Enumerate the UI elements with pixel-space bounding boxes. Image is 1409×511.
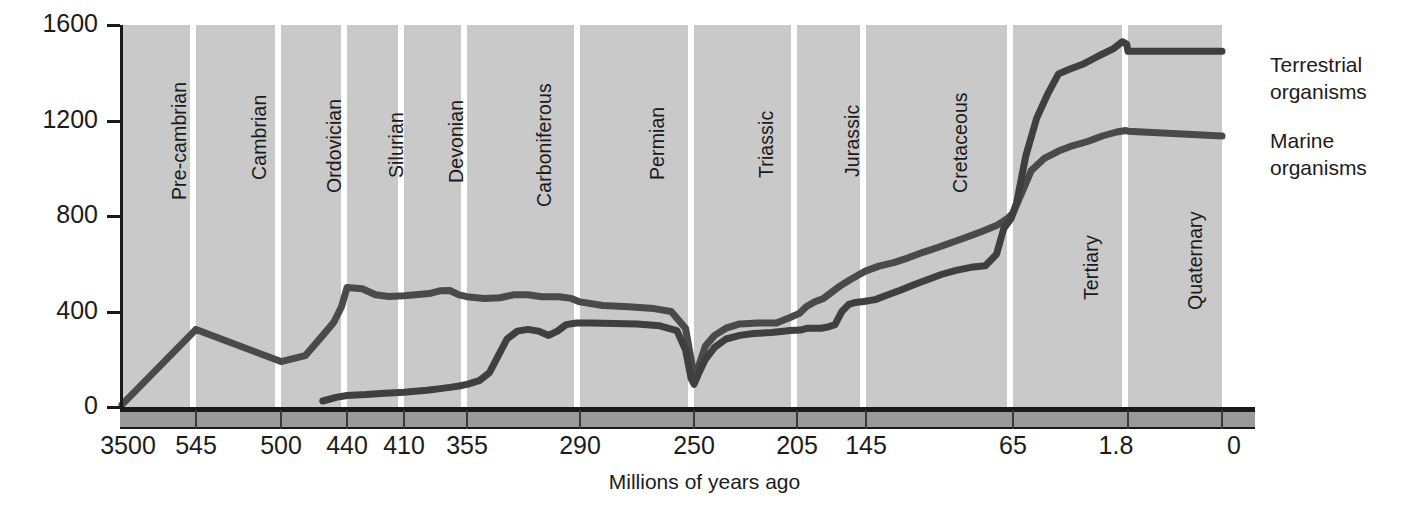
period-label-triassic: Triassic (755, 111, 778, 178)
period-scale-divider-6 (579, 410, 581, 429)
period-label-ordovician: Ordovician (323, 99, 346, 193)
y-tick-mark-1600 (107, 24, 120, 27)
x-tick-label-65: 65 (953, 433, 1073, 458)
period-band-jurassic (797, 25, 860, 407)
x-tick-label-355: 355 (407, 433, 527, 458)
period-band-cambrian (196, 25, 275, 407)
y-tick-label-1600: 1600 (0, 11, 98, 36)
period-label-silurian: Silurian (385, 112, 408, 178)
period-scale-divider-1 (195, 410, 197, 429)
y-tick-label-1200: 1200 (0, 107, 98, 132)
period-band-cretaceous (866, 25, 1007, 407)
period-label-devonian: Devonian (445, 100, 468, 183)
period-band-triassic (694, 25, 791, 407)
period-scale-divider-9 (865, 410, 867, 429)
period-label-pre-cambrian: Pre-cambrian (168, 82, 191, 200)
x-tick-label-145: 145 (806, 433, 926, 458)
period-band-ordovician (281, 25, 341, 407)
period-scale-bar (120, 410, 1255, 429)
period-band-carboniferous (467, 25, 574, 407)
y-tick-mark-800 (107, 215, 120, 218)
period-band-quaternary (1128, 25, 1222, 407)
period-scale-divider-4 (403, 410, 405, 429)
period-band-permian (580, 25, 688, 407)
period-scale-divider-2 (280, 410, 282, 429)
y-axis-line (120, 25, 123, 409)
legend-marine-line2: organisms (1270, 155, 1367, 182)
period-band-devonian (404, 25, 461, 407)
x-tick-label-250: 250 (634, 433, 754, 458)
period-band-tertiary (1013, 25, 1122, 407)
period-band-silurian (347, 25, 398, 407)
y-tick-mark-1200 (107, 120, 120, 123)
period-scale-divider-3 (346, 410, 348, 429)
legend-entry-terrestrial: Terrestrial organisms (1270, 52, 1367, 106)
legend-entry-marine: Marine organisms (1270, 128, 1367, 182)
chart-figure: Number of families 040080012001600350054… (0, 0, 1409, 511)
legend-terrestrial-line1: Terrestrial (1270, 52, 1367, 79)
period-label-carboniferous: Carboniferous (533, 83, 556, 207)
x-tick-label-290: 290 (520, 433, 640, 458)
x-axis-title: Millions of years ago (0, 470, 1409, 494)
y-tick-mark-400 (107, 311, 120, 314)
x-tick-label-0: 0 (1174, 433, 1294, 458)
x-tick-label-1-8: 1.8 (1056, 433, 1176, 458)
period-label-jurassic: Jurassic (841, 105, 864, 177)
period-scale-divider-5 (466, 410, 468, 429)
y-tick-mark-0 (107, 406, 120, 409)
legend-terrestrial-line2: organisms (1270, 79, 1367, 106)
period-scale-divider-7 (693, 410, 695, 429)
y-tick-label-0: 0 (0, 393, 98, 418)
period-label-cretaceous: Cretaceous (949, 92, 972, 193)
y-tick-label-400: 400 (0, 298, 98, 323)
period-label-cambrian: Cambrian (248, 95, 271, 180)
period-scale-divider-10 (1012, 410, 1014, 429)
period-label-quaternary: Quaternary (1184, 211, 1207, 310)
period-scale-divider-12 (1221, 410, 1223, 429)
period-label-permian: Permian (646, 107, 669, 180)
period-label-tertiary: Tertiary (1080, 235, 1103, 300)
legend-marine-line1: Marine (1270, 128, 1367, 155)
period-scale-divider-8 (796, 410, 798, 429)
period-scale-divider-11 (1127, 410, 1129, 429)
y-tick-label-800: 800 (0, 202, 98, 227)
